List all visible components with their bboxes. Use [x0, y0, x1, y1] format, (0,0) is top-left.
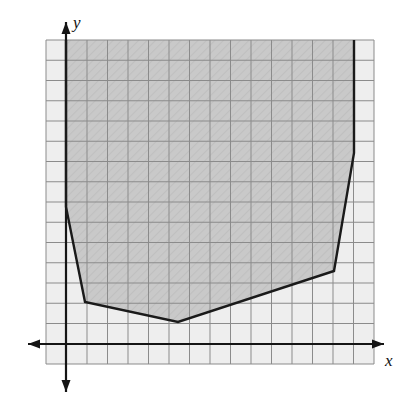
y-axis-label: y: [73, 14, 81, 31]
y-axis-arrow-down: [62, 380, 71, 392]
y-axis-arrow-up: [62, 22, 71, 34]
figure-canvas: y x: [0, 0, 411, 408]
coordinate-plane-svg: [0, 0, 411, 408]
x-axis-label: x: [385, 352, 393, 369]
x-axis-arrow-right: [372, 340, 384, 349]
x-axis-arrow-left: [28, 340, 40, 349]
